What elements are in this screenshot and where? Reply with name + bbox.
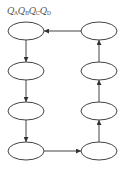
transitions-group (26, 31, 99, 151)
state-node-7 (81, 62, 117, 80)
state-diagram (0, 0, 125, 170)
state-node-5 (81, 142, 117, 160)
state-node-3 (8, 102, 44, 120)
state-node-1 (8, 22, 44, 40)
state-node-6 (81, 102, 117, 120)
state-node-2 (8, 62, 44, 80)
state-node-8 (81, 22, 117, 40)
state-node-4 (8, 142, 44, 160)
states-group (8, 22, 117, 160)
